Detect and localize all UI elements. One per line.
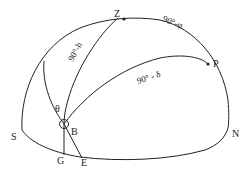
g-label: G bbox=[57, 155, 64, 166]
horizon-arc bbox=[22, 128, 228, 160]
arc-zenith-pole-label: 90°-φ bbox=[161, 14, 184, 31]
celestial-sphere-diagram: Z P B S N G E θ 90°-h 90°-φ 90° - δ bbox=[0, 0, 250, 178]
zenith-point bbox=[122, 17, 125, 20]
e-label: E bbox=[81, 157, 87, 168]
arc-pole-body-label: 90° - δ bbox=[136, 69, 162, 86]
pole-body-arc bbox=[64, 56, 208, 124]
meridian-arc bbox=[22, 18, 229, 130]
south-label: S bbox=[11, 131, 17, 142]
diagram-svg: Z P B S N G E θ 90°-h 90°-φ 90° - δ bbox=[0, 0, 250, 178]
pole-point bbox=[206, 62, 209, 65]
angle-theta-label: θ bbox=[55, 103, 60, 114]
zenith-label: Z bbox=[114, 8, 120, 19]
pole-label: P bbox=[213, 58, 219, 69]
north-label: N bbox=[232, 128, 239, 139]
body-label: B bbox=[71, 126, 78, 137]
arc-zenith-body-label: 90°-h bbox=[66, 40, 84, 63]
